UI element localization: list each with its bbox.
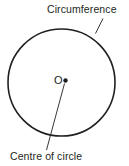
centre-point-dot: [63, 78, 67, 82]
circle-diagram-figure: Circumference O Centre of circle: [0, 0, 129, 166]
centre-of-circle-label: Centre of circle: [10, 151, 82, 162]
diagram-canvas: [0, 0, 129, 166]
centre-point-label: O: [54, 75, 63, 86]
circumference-label: Circumference: [47, 4, 117, 15]
centre-leader-line: [47, 84, 65, 151]
circumference-leader-line: [96, 19, 104, 34]
